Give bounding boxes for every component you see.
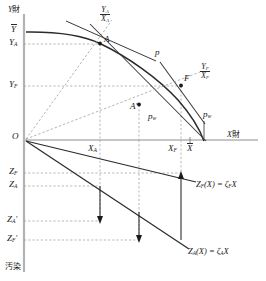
economics-ppf-pollution-figure: Y財 X財 汚染 O Y YA YF XA XF X A F A′ p pw p… <box>0 0 266 281</box>
ray-label-YA-over-XA: YAXA <box>100 6 110 23</box>
price-line-p <box>66 21 156 61</box>
origin-rays <box>26 20 200 139</box>
x-tick-XA: XA <box>88 144 97 154</box>
z-tick-ZA: ZA <box>9 180 17 190</box>
price-label-p: p <box>155 48 160 57</box>
z-tick-ZA-prime: ZA′ <box>7 215 17 225</box>
lower-axis-label: 汚染 <box>5 263 21 271</box>
arrow-ZF-increase <box>178 171 184 240</box>
point-A-marker <box>98 42 102 46</box>
x-tick-XF: XF <box>168 144 177 154</box>
price-label-pw-F: pw <box>203 110 211 120</box>
price-label-pw-A: pw <box>148 112 156 122</box>
origin-label: O <box>12 132 19 141</box>
y-tick-YF: YF <box>9 80 17 90</box>
y-tick-YA: YA <box>9 38 17 48</box>
point-A-prime-label: A′ <box>130 102 137 111</box>
x-tick-Xbar: X <box>187 144 193 153</box>
equation-ZF: ZF(X) = ζFX <box>196 180 237 189</box>
ray-label-YF-over-XF: YFXF <box>200 63 210 80</box>
point-A-label: A <box>104 35 110 44</box>
point-F-marker <box>179 84 183 88</box>
price-line-pw-tangent-F <box>160 62 205 124</box>
line-ZA <box>26 141 189 249</box>
z-tick-ZF-prime: ZF′ <box>7 234 17 244</box>
figure-canvas <box>0 0 266 281</box>
z-tick-ZF: ZF <box>9 167 17 177</box>
y-axis-label: Y財 <box>8 6 20 14</box>
point-A-prime-marker <box>137 103 141 107</box>
x-axis-label: X財 <box>227 131 240 139</box>
point-F-label: F <box>184 74 190 83</box>
y-tick-Ybar: Y <box>11 25 16 34</box>
equation-ZA: ZA(X) = ζAX <box>188 247 229 256</box>
